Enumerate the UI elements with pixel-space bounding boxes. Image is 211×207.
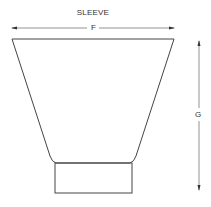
sleeve-body-outline [12,39,174,163]
arrow-left-icon [11,27,17,30]
diagram-title: SLEEVE [0,9,186,17]
dimension-f-label: F [89,24,98,32]
arrow-down-icon [198,185,201,191]
sleeve-drawing [0,0,211,207]
sleeve-cuff-outline [55,163,132,193]
arrow-up-icon [198,40,201,46]
dimension-g-label: G [195,110,201,120]
arrow-right-icon [169,27,175,30]
